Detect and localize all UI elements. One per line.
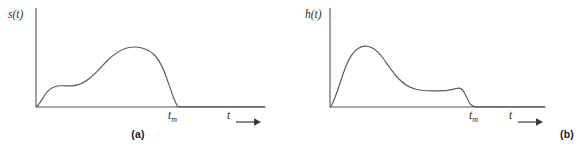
curve-s-of-t [37,47,266,107]
x-axis-label-a: t [227,110,230,122]
y-axis-label-b: h(t) [305,9,322,21]
panel-b: h(t) tm t (b) [277,0,553,153]
tm-subscript-a: m [171,115,177,124]
x-axis-label-b: t [509,110,512,122]
caption-b: (b) [277,128,578,140]
tm-tick-label-b: tm [469,110,478,124]
tm-tick-label-a: tm [168,110,177,124]
y-axis-label-a: s(t) [8,9,23,21]
right-arrow-icon-b [518,117,544,127]
curve-h-of-t [331,46,546,107]
panel-a: s(t) tm t (a) [0,0,276,153]
x-axis-arrow-a [236,113,262,123]
right-arrow-icon-a [236,117,262,127]
tm-subscript-b: m [472,115,478,124]
x-axis-arrow-b [518,113,544,123]
